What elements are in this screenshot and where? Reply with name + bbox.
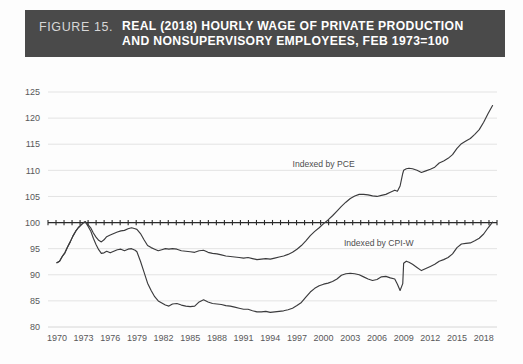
figure-title-banner: FIGURE 15. REAL (2018) HOURLY WAGE OF PR… [25,10,505,57]
x-tick-label-2018: 2018 [474,333,494,343]
x-tick-label-1976: 1976 [100,333,120,343]
x-tick-label-1991: 1991 [234,333,254,343]
x-tick-label-2012: 2012 [420,333,440,343]
x-tick-label-2000: 2000 [314,333,334,343]
reference-line-100 [48,220,497,225]
x-tick-label-1985: 1985 [180,333,200,343]
grid-lines [48,92,497,327]
data-series-lines [57,106,493,313]
figure-title-line-2: AND NONSUPERVISORY EMPLOYEES, FEB 1973=1… [122,34,463,49]
figure-container: FIGURE 15. REAL (2018) HOURLY WAGE OF PR… [0,0,523,364]
x-tick-label-1997: 1997 [287,333,307,343]
figure-number-label: FIGURE 15. [39,19,113,34]
x-tick-label-1970: 1970 [47,333,67,343]
annotation-indexed-by-cpi-w: Indexed by CPI-W [344,238,415,248]
x-tick-label-1994: 1994 [260,333,280,343]
y-tick-label-85: 85 [30,296,40,306]
x-tick-label-2003: 2003 [340,333,360,343]
y-tick-label-90: 90 [30,270,40,280]
y-tick-label-120: 120 [25,113,40,123]
series-line-indexed-by-pce [57,106,493,263]
x-tick-label-2015: 2015 [447,333,467,343]
x-tick-label-2006: 2006 [367,333,387,343]
y-tick-label-100: 100 [25,218,40,228]
annotation-indexed-by-pce: Indexed by PCE [293,159,355,169]
x-tick-label-1988: 1988 [207,333,227,343]
series-annotations: Indexed by PCEIndexed by CPI-W [293,159,415,247]
x-tick-label-1973: 1973 [74,333,94,343]
y-axis-tick-labels: 80859095100105110115120125 [25,87,40,332]
x-tick-label-2009: 2009 [394,333,414,343]
chart-plot-area: 80859095100105110115120125 1970197319761… [0,62,523,364]
y-tick-label-80: 80 [30,322,40,332]
y-tick-label-125: 125 [25,87,40,97]
y-tick-label-95: 95 [30,244,40,254]
y-tick-label-110: 110 [26,166,40,176]
figure-title: REAL (2018) HOURLY WAGE OF PRIVATE PRODU… [122,19,463,49]
series-line-indexed-by-cpi-w [57,222,493,312]
y-tick-label-105: 105 [25,192,40,202]
line-chart: 80859095100105110115120125 1970197319761… [0,62,523,364]
y-tick-label-115: 115 [26,139,40,149]
x-tick-label-1979: 1979 [127,333,147,343]
x-axis-tick-labels: 1970197319761979198219851988199119941997… [47,333,494,343]
figure-title-line-1: REAL (2018) HOURLY WAGE OF PRIVATE PRODU… [122,19,463,34]
x-tick-label-1982: 1982 [154,333,174,343]
